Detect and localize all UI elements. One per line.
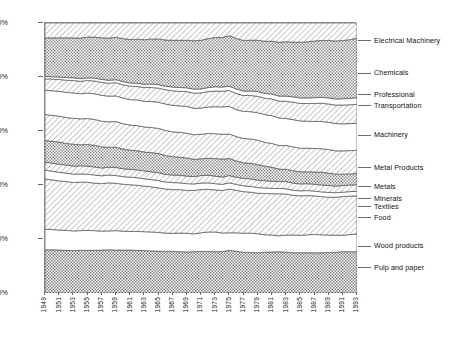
chart-screenshot: 0%20%40%60%80%100% [0,0,468,339]
x-axis-tick-mark [314,292,315,295]
area-band [45,250,357,293]
y-axis-tick-label: 100% [0,18,8,27]
x-axis-tick-label: 1949 [40,297,47,312]
x-axis-tick-mark [285,292,286,295]
x-axis-tick-label: 1985 [296,297,303,312]
legend-leader-line [358,105,371,106]
legend-label: Electrical Machinery [374,36,440,46]
x-axis-tick-mark [328,292,329,295]
y-axis-tick-label: 80% [0,72,8,81]
legend-label: Wood products [374,241,424,251]
x-axis-tick-label: 1981 [267,297,274,312]
x-axis-tick-label: 1957 [97,297,104,312]
legend-leader-line [358,198,371,199]
x-axis-tick-mark [44,292,45,295]
legend-leader-line [358,167,371,168]
x-axis-tick-label: 1973 [211,297,218,312]
y-axis-tick-mark [38,184,43,185]
x-axis-tick-mark [87,292,88,295]
x-axis-tick-label: 1959 [111,297,118,312]
x-axis-tick-mark [257,292,258,295]
legend-leader-line [358,73,371,74]
legend-leader-line [358,135,371,136]
x-axis-tick-mark [172,292,173,295]
x-axis-tick-mark [342,292,343,295]
x-axis-tick-label: 1961 [126,297,133,312]
x-axis-tick-label: 1963 [140,297,147,312]
legend-label: Pulp and paper [374,263,424,273]
x-axis-tick-mark [299,292,300,295]
legend-leader-line [358,267,371,268]
x-axis-tick-label: 1971 [196,297,203,312]
y-axis-tick-label: 20% [0,234,8,243]
legend-label: Professional [374,90,415,100]
plot-area [44,22,356,292]
y-axis-tick-mark [38,238,43,239]
stacked-area-chart [45,23,357,293]
y-axis: 0%20%40%60%80%100% [0,0,40,339]
x-axis-tick-mark [129,292,130,295]
legend-label: Metal Products [374,163,423,173]
x-axis: 1949195119531955195719591961196319651967… [44,292,356,339]
legend-leader-line [358,206,371,207]
x-axis-tick-label: 1953 [69,297,76,312]
legend-label: Transportation [374,101,421,111]
x-axis-tick-mark [228,292,229,295]
x-axis-tick-mark [200,292,201,295]
x-axis-tick-mark [115,292,116,295]
x-axis-tick-label: 1969 [182,297,189,312]
y-axis-tick-label: 40% [0,180,8,189]
legend-label: Food [374,213,391,223]
legend-leader-line [358,217,371,218]
x-axis-tick-label: 1965 [154,297,161,312]
x-axis-tick-label: 1951 [55,297,62,312]
x-axis-tick-label: 1967 [168,297,175,312]
x-axis-tick-label: 1977 [239,297,246,312]
x-axis-tick-label: 1983 [282,297,289,312]
x-axis-tick-mark [143,292,144,295]
y-axis-tick-label: 0% [0,288,8,297]
x-axis-tick-mark [101,292,102,295]
x-axis-tick-mark [214,292,215,295]
x-axis-tick-label: 1979 [253,297,260,312]
legend-label: Textiles [374,202,399,212]
series-legend: Electrical MachineryChemicalsProfessiona… [356,0,468,339]
y-axis-tick-mark [38,130,43,131]
y-axis-tick-mark [38,22,43,23]
x-axis-tick-label: 1989 [324,297,331,312]
y-axis-tick-label: 60% [0,126,8,135]
x-axis-tick-mark [243,292,244,295]
x-axis-tick-label: 1955 [83,297,90,312]
legend-label: Machinery [374,130,408,140]
x-axis-tick-label: 1987 [310,297,317,312]
x-axis-tick-mark [186,292,187,295]
legend-label: Chemicals [374,68,408,78]
legend-leader-line [358,94,371,95]
x-axis-tick-label: 1975 [225,297,232,312]
legend-leader-line [358,186,371,187]
x-axis-tick-mark [58,292,59,295]
x-axis-tick-mark [271,292,272,295]
y-axis-tick-mark [38,76,43,77]
legend-leader-line [358,40,371,41]
legend-label: Metals [374,182,396,192]
x-axis-tick-mark [158,292,159,295]
x-axis-tick-mark [72,292,73,295]
legend-leader-line [358,246,371,247]
x-axis-tick-label: 1991 [338,297,345,312]
